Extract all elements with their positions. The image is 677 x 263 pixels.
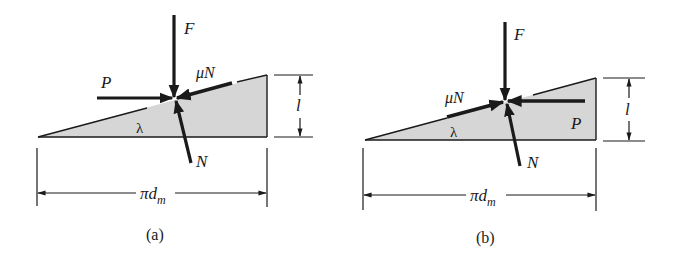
caption-a: (a) bbox=[146, 226, 164, 244]
label-F: F bbox=[513, 25, 525, 44]
label-P: P bbox=[100, 73, 111, 92]
label-circumference: πdm bbox=[140, 184, 166, 207]
label-circumference-main: πd bbox=[140, 184, 158, 203]
panel-b: F μN λ P N l πdm (b) bbox=[363, 22, 645, 247]
label-muN: μN bbox=[195, 64, 216, 82]
label-lead: l bbox=[625, 100, 630, 119]
label-lambda: λ bbox=[450, 124, 458, 140]
label-circumference-sub: m bbox=[487, 195, 496, 209]
thread-force-diagram: F μN P λ N l πdm (a) F μN λ P bbox=[0, 0, 677, 263]
label-muN: μN bbox=[444, 89, 465, 107]
panel-a: F μN P λ N l πdm (a) bbox=[37, 15, 313, 244]
label-circumference-main: πd bbox=[470, 186, 488, 205]
label-lambda: λ bbox=[136, 120, 144, 136]
label-N: N bbox=[195, 152, 209, 171]
label-lead: l bbox=[296, 96, 301, 115]
label-circumference-sub: m bbox=[157, 193, 166, 207]
label-circumference: πdm bbox=[470, 186, 496, 209]
label-P: P bbox=[570, 114, 581, 133]
label-N: N bbox=[526, 153, 540, 172]
label-F: F bbox=[183, 19, 195, 38]
caption-b: (b) bbox=[476, 229, 495, 247]
